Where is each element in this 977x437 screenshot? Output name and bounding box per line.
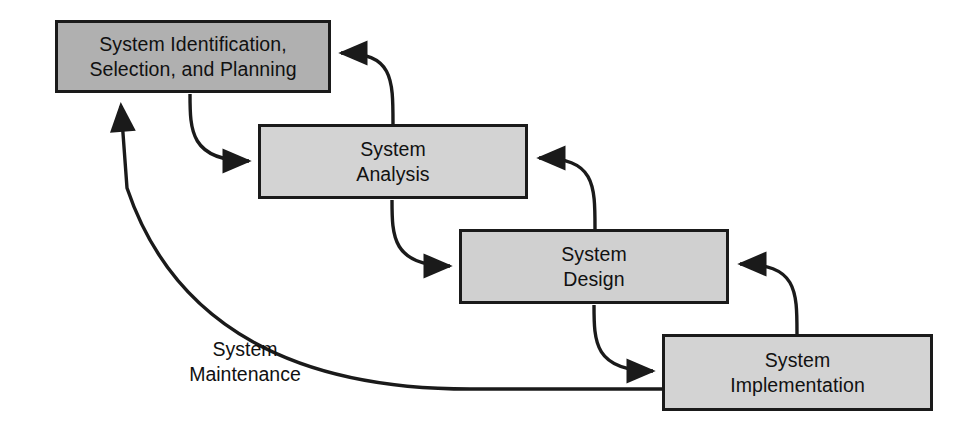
edge-implementation-to-design xyxy=(740,264,797,334)
edge-design-to-analysis xyxy=(539,158,595,229)
edge-label-system-maintenance: System Maintenance xyxy=(150,337,340,387)
node-system-design-label: System Design xyxy=(557,242,631,292)
node-system-implementation-label: System Implementation xyxy=(726,348,869,398)
edge-identification-to-analysis xyxy=(190,94,249,161)
node-system-analysis-label: System Analysis xyxy=(352,137,433,187)
node-system-identification[interactable]: System Identification, Selection, and Pl… xyxy=(55,20,331,93)
node-system-implementation[interactable]: System Implementation xyxy=(662,334,933,411)
edge-design-to-implementation xyxy=(594,305,653,371)
edge-analysis-to-design xyxy=(392,200,450,266)
node-system-analysis[interactable]: System Analysis xyxy=(258,124,528,199)
waterfall-diagram: System Identification, Selection, and Pl… xyxy=(0,0,977,437)
node-system-design[interactable]: System Design xyxy=(459,229,729,304)
node-system-identification-label: System Identification, Selection, and Pl… xyxy=(85,32,300,82)
edge-analysis-to-identification xyxy=(341,53,393,124)
